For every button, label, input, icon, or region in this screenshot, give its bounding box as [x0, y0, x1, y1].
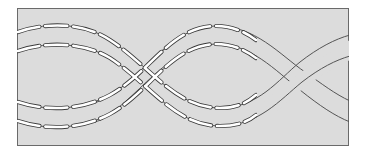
diagram-canvas [0, 0, 368, 157]
twisted-bands-diagram [0, 0, 368, 157]
